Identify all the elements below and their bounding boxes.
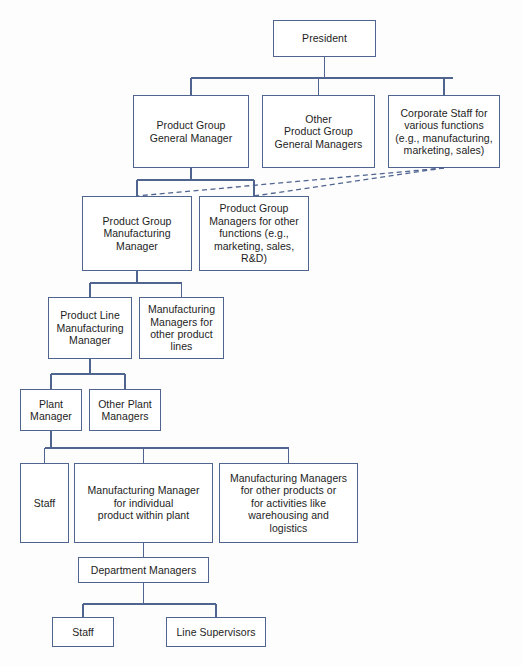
org-node-staff-plant[interactable]: Staff [20,463,69,543]
org-node-label-president: President [302,32,347,44]
org-node-manufacturing-managers-other-products[interactable]: Manufacturing Managers for other product… [219,463,358,543]
org-node-label-other-product-group-general-managers: Other Product Group General Managers [275,113,363,150]
org-node-label-department-managers: Department Managers [91,564,196,576]
org-node-line-supervisors[interactable]: Line Supervisors [166,617,266,647]
org-node-label-product-group-managers-other-functions: Product Group Managers for other functio… [209,202,299,264]
org-node-label-plant-manager: Plant Manager [30,398,72,423]
org-node-product-group-managers-other-functions[interactable]: Product Group Managers for other functio… [199,196,309,271]
org-node-staff-department[interactable]: Staff [52,617,114,647]
org-node-corporate-staff[interactable]: Corporate Staff for various functions (e… [388,95,500,168]
org-node-product-group-general-manager[interactable]: Product Group General Manager [133,95,249,168]
org-node-label-corporate-staff: Corporate Staff for various functions (e… [395,107,492,157]
org-node-label-product-group-manufacturing-manager: Product Group Manufacturing Manager [103,215,172,252]
org-node-label-staff-department: Staff [72,626,94,638]
org-node-other-plant-managers[interactable]: Other Plant Managers [89,389,161,431]
org-node-label-product-group-general-manager: Product Group General Manager [150,119,232,144]
org-node-label-manufacturing-managers-other-product-lines: Manufacturing Managers for other product… [148,303,215,353]
org-node-label-product-line-manufacturing-manager: Product Line Manufacturing Manager [56,309,123,346]
connector-corporate-staff-to-pg-mfg-mgr [137,168,444,196]
connector-corporate-staff-to-pg-other-functions [254,168,444,196]
org-node-label-manufacturing-managers-other-products: Manufacturing Managers for other product… [230,472,347,534]
org-node-label-other-plant-managers: Other Plant Managers [98,398,152,423]
org-node-manufacturing-manager-individual-product[interactable]: Manufacturing Manager for individual pro… [74,463,213,543]
org-node-department-managers[interactable]: Department Managers [78,557,209,583]
org-node-president[interactable]: President [273,20,376,57]
org-node-product-group-manufacturing-manager[interactable]: Product Group Manufacturing Manager [82,196,192,271]
org-node-label-line-supervisors: Line Supervisors [176,626,255,638]
org-chart: PresidentProduct Group General ManagerOt… [0,0,522,666]
org-node-plant-manager[interactable]: Plant Manager [20,389,82,431]
org-node-label-manufacturing-manager-individual-product: Manufacturing Manager for individual pro… [88,484,200,521]
org-node-label-staff-plant: Staff [34,497,56,509]
org-node-product-line-manufacturing-manager[interactable]: Product Line Manufacturing Manager [48,297,132,359]
org-node-other-product-group-general-managers[interactable]: Other Product Group General Managers [262,95,375,168]
org-node-manufacturing-managers-other-product-lines[interactable]: Manufacturing Managers for other product… [139,297,224,359]
